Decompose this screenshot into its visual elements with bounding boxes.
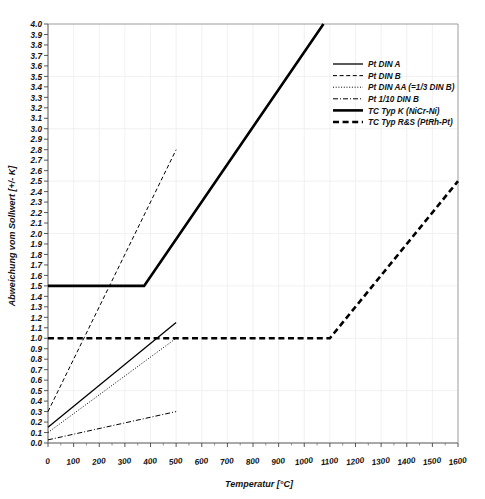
- y-tick-label: 0.5: [31, 387, 43, 396]
- y-tick-label: 4.0: [30, 20, 43, 29]
- y-tick-label: 2.9: [30, 135, 43, 144]
- y-axis-title: Abweichung vom Sollwert [+/- K]: [7, 165, 17, 307]
- y-tick-label: 3.6: [31, 62, 43, 71]
- x-tick-label: 800: [245, 456, 260, 467]
- y-tick-label: 0.2: [31, 418, 43, 427]
- y-tick-label: 3.5: [31, 73, 43, 82]
- y-tick-label: 3.4: [31, 83, 43, 92]
- x-axis-tick-labels: 0100200300400500600700800900100011001200…: [45, 456, 468, 468]
- x-tick-label: 900: [271, 456, 286, 467]
- x-tick-label: 200: [91, 456, 107, 467]
- series-line-3: [48, 412, 176, 440]
- y-tick-label: 1.8: [31, 251, 43, 260]
- y-tick-label: 0.0: [31, 439, 43, 448]
- y-tick-label: 1.6: [31, 272, 43, 281]
- y-tick-label: 0.4: [31, 397, 43, 406]
- x-tick-label: 1200: [346, 456, 366, 468]
- series-line-4: [48, 24, 323, 286]
- legend-label-5: TC Typ R&S (PtRh-Pt): [368, 118, 453, 127]
- x-tick-label: 400: [142, 456, 158, 467]
- y-tick-label: 0.6: [31, 376, 43, 385]
- y-tick-label: 0.9: [31, 345, 43, 354]
- x-tick-label: 500: [168, 456, 183, 467]
- y-tick-label: 3.8: [31, 41, 43, 50]
- series-line-1: [48, 150, 176, 412]
- legend-label-2: Pt DIN AA (=1/3 DIN B): [368, 83, 455, 92]
- y-tick-label: 1.2: [31, 314, 43, 323]
- x-tick-label: 300: [117, 456, 132, 467]
- y-tick-label: 2.7: [30, 156, 43, 165]
- x-tick-label: 1300: [371, 456, 391, 468]
- legend-label-0: Pt DIN A: [368, 60, 401, 69]
- y-axis-tick-labels: 0.00.10.20.30.40.50.60.70.80.91.01.11.21…: [30, 20, 43, 448]
- legend-label-3: Pt 1/10 DIN B: [368, 95, 419, 104]
- y-tick-label: 3.3: [31, 94, 43, 103]
- x-tick-label: 1000: [294, 456, 314, 468]
- y-tick-label: 0.1: [31, 429, 43, 438]
- y-tick-label: 1.4: [31, 293, 43, 302]
- y-tick-label: 3.9: [31, 31, 43, 40]
- y-tick-label: 3.2: [31, 104, 43, 113]
- y-tick-label: 3.0: [31, 125, 43, 134]
- x-tick-label: 1600: [448, 456, 468, 468]
- y-tick-label: 1.9: [31, 240, 43, 249]
- y-tick-label: 1.0: [31, 334, 43, 343]
- legend-label-4: TC Typ K (NiCr-Ni): [368, 107, 440, 116]
- y-tick-label: 3.7: [31, 52, 43, 61]
- legend-label-1: Pt DIN B: [368, 72, 401, 81]
- y-tick-label: 2.3: [30, 198, 43, 207]
- x-tick-label: 1100: [320, 456, 339, 467]
- y-tick-label: 2.0: [30, 230, 43, 239]
- x-tick-label: 1500: [422, 456, 442, 468]
- x-tick-label: 700: [220, 456, 235, 467]
- y-tick-label: 2.4: [30, 188, 43, 197]
- y-tick-label: 1.7: [31, 261, 43, 270]
- x-tick-label: 600: [194, 456, 209, 467]
- y-tick-label: 2.6: [30, 167, 43, 176]
- x-axis-title: Temperatur [°C]: [225, 479, 294, 489]
- deviation-vs-temperature-chart: 0.00.10.20.30.40.50.60.70.80.91.01.11.21…: [0, 0, 485, 499]
- y-tick-label: 2.2: [30, 209, 43, 218]
- y-tick-label: 0.3: [31, 408, 43, 417]
- x-tick-label: 0: [45, 457, 51, 467]
- series-line-2: [48, 338, 176, 432]
- chart-legend: Pt DIN APt DIN BPt DIN AA (=1/3 DIN B)Pt…: [333, 60, 455, 127]
- y-tick-label: 1.1: [31, 324, 43, 333]
- x-tick-label: 1400: [397, 456, 417, 468]
- x-tick-label: 100: [66, 456, 81, 467]
- y-tick-label: 3.1: [31, 114, 43, 123]
- y-tick-label: 0.7: [31, 366, 43, 375]
- y-tick-label: 2.1: [30, 219, 43, 228]
- y-tick-label: 1.3: [31, 303, 43, 312]
- y-tick-label: 1.5: [31, 282, 43, 291]
- y-tick-label: 2.8: [30, 146, 43, 155]
- chart-container: 0.00.10.20.30.40.50.60.70.80.91.01.11.21…: [0, 0, 485, 499]
- y-tick-label: 0.8: [31, 355, 43, 364]
- y-tick-label: 2.5: [30, 177, 43, 186]
